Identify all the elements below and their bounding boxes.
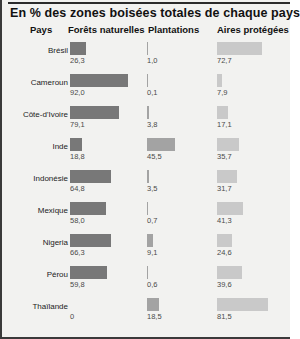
- bar-forets-naturelles: [70, 266, 107, 279]
- table-row: Indonésie64,83,531,7: [2, 170, 290, 202]
- bar-aires-protegees: [217, 266, 242, 279]
- country-label: Nigeria: [0, 238, 68, 247]
- country-label: Brésil: [0, 46, 68, 55]
- table-row: Inde18,845,535,7: [2, 138, 290, 170]
- bar-value-plantations: 45,5: [147, 152, 162, 161]
- bar-value-aires-protegees: 7,9: [217, 88, 227, 97]
- table-row: Thaïlande018,581,5: [2, 298, 290, 330]
- country-label: Pérou: [0, 270, 68, 279]
- column-header-row: Pays Forêts naturelles Plantations Aires…: [2, 24, 290, 40]
- bar-value-aires-protegees: 81,5: [217, 312, 232, 321]
- bar-value-aires-protegees: 24,6: [217, 248, 232, 257]
- column-header-pays: Pays: [30, 24, 52, 35]
- bar-value-plantations: 18,5: [147, 312, 162, 321]
- table-row: Cameroun92,00,17,9: [2, 74, 290, 106]
- chart-title: En % des zones boisées totales de chaque…: [10, 6, 286, 20]
- bar-value-aires-protegees: 17,1: [217, 120, 232, 129]
- bar-value-plantations: 3,5: [147, 184, 157, 193]
- bar-value-forets-naturelles: 64,8: [70, 184, 85, 193]
- bar-value-plantations: 0,1: [147, 88, 157, 97]
- bar-value-plantations: 1,0: [147, 56, 157, 65]
- table-row: Brésil26,31,072,7: [2, 42, 290, 74]
- bar-aires-protegees: [217, 202, 243, 215]
- bar-value-plantations: 0,7: [147, 216, 157, 225]
- bar-value-forets-naturelles: 92,0: [70, 88, 85, 97]
- title-divider: [8, 2, 290, 4]
- bar-forets-naturelles: [70, 138, 82, 151]
- bar-aires-protegees: [217, 234, 232, 247]
- bar-value-forets-naturelles: 58,0: [70, 216, 85, 225]
- bar-value-forets-naturelles: 59,8: [70, 280, 85, 289]
- bar-value-aires-protegees: 35,7: [217, 152, 232, 161]
- bar-aires-protegees: [217, 106, 228, 119]
- bar-plantations: [147, 138, 175, 151]
- bar-value-forets-naturelles: 66,3: [70, 248, 85, 257]
- bar-forets-naturelles: [70, 106, 119, 119]
- column-header-aires-protegees: Aires protégées: [217, 24, 289, 35]
- bar-value-aires-protegees: 31,7: [217, 184, 232, 193]
- bar-value-plantations: 3,8: [147, 120, 157, 129]
- bar-forets-naturelles: [70, 42, 86, 55]
- bar-aires-protegees: [217, 170, 237, 183]
- country-label: Côte-d'Ivoire: [0, 110, 68, 119]
- chart-rows: Brésil26,31,072,7Cameroun92,00,17,9Côte-…: [2, 42, 290, 330]
- table-row: Mexique58,00,741,3: [2, 202, 290, 234]
- bar-plantations: [147, 170, 149, 183]
- bar-aires-protegees: [217, 298, 268, 311]
- country-label: Mexique: [0, 206, 68, 215]
- bar-value-aires-protegees: 39,6: [217, 280, 232, 289]
- country-label: Cameroun: [0, 78, 68, 87]
- table-row: Pérou59,80,639,6: [2, 266, 290, 298]
- table-row: Côte-d'Ivoire79,13,817,1: [2, 106, 290, 138]
- bar-value-plantations: 0,6: [147, 280, 157, 289]
- table-row: Nigeria66,39,124,6: [2, 234, 290, 266]
- bar-value-forets-naturelles: 26,3: [70, 56, 85, 65]
- bar-value-forets-naturelles: 0: [70, 312, 74, 321]
- bar-value-forets-naturelles: 79,1: [70, 120, 85, 129]
- bar-forets-naturelles: [70, 74, 128, 87]
- bar-forets-naturelles: [70, 170, 111, 183]
- country-label: Thaïlande: [0, 302, 68, 311]
- bar-aires-protegees: [217, 74, 222, 87]
- country-label: Indonésie: [0, 174, 68, 183]
- country-label: Inde: [0, 142, 68, 151]
- bar-forets-naturelles: [70, 202, 106, 215]
- bar-value-forets-naturelles: 18,8: [70, 152, 85, 161]
- bar-plantations: [147, 42, 148, 55]
- bar-plantations: [147, 234, 153, 247]
- bar-value-aires-protegees: 72,7: [217, 56, 232, 65]
- bar-forets-naturelles: [70, 234, 111, 247]
- bar-plantations: [147, 106, 149, 119]
- bar-value-aires-protegees: 41,3: [217, 216, 232, 225]
- bar-aires-protegees: [217, 42, 262, 55]
- bar-plantations: [147, 298, 159, 311]
- column-header-forets-naturelles: Forêts naturelles: [68, 24, 145, 35]
- bar-value-plantations: 9,1: [147, 248, 157, 257]
- bar-plantations: [147, 74, 148, 87]
- bar-plantations: [147, 266, 148, 279]
- chart-panel: En % des zones boisées totales de chaque…: [0, 0, 290, 339]
- bar-aires-protegees: [217, 138, 239, 151]
- bar-plantations: [147, 202, 148, 215]
- column-header-plantations: Plantations: [148, 24, 199, 35]
